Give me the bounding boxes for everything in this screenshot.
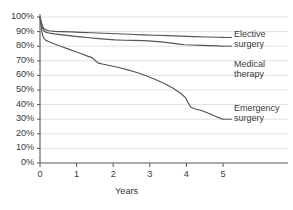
y-tick-label: 0%	[0, 157, 34, 167]
y-tick-label: 100%	[0, 11, 34, 21]
y-tick-label: 70%	[0, 55, 34, 65]
axis-ticks	[37, 17, 223, 167]
x-tick-label: 3	[143, 169, 157, 179]
x-axis-title: Years	[115, 186, 138, 196]
y-tick-label: 80%	[0, 40, 34, 50]
series-label-medical-line1: Medical	[234, 59, 265, 69]
series-label-emergency-line2: surgery	[234, 113, 280, 123]
y-tick-label: 50%	[0, 84, 34, 94]
series-label-elective-line2: surgery	[234, 39, 266, 49]
x-tick-label: 0	[33, 169, 47, 179]
y-tick-label: 90%	[0, 26, 34, 36]
y-tick-label: 40%	[0, 99, 34, 109]
x-tick-label: 4	[179, 169, 193, 179]
y-tick-label: 20%	[0, 128, 34, 138]
series-label-medical: Medical therapy	[234, 59, 265, 80]
series-label-emergency: Emergency surgery	[234, 103, 280, 124]
y-tick-label: 60%	[0, 69, 34, 79]
y-tick-label: 30%	[0, 113, 34, 123]
survival-chart: 0%10%20%30%40%50%60%70%80%90%100% 012345…	[0, 0, 293, 210]
series-label-elective: Elective surgery	[234, 29, 266, 50]
x-tick-label: 2	[106, 169, 120, 179]
series-label-medical-line2: therapy	[234, 69, 265, 79]
series-label-elective-line1: Elective	[234, 29, 266, 39]
series-label-emergency-line1: Emergency	[234, 103, 280, 113]
series-line-elective	[40, 17, 223, 37]
y-tick-label: 10%	[0, 142, 34, 152]
series-lines	[40, 17, 232, 119]
x-tick-label: 5	[216, 169, 230, 179]
x-tick-label: 1	[70, 169, 84, 179]
